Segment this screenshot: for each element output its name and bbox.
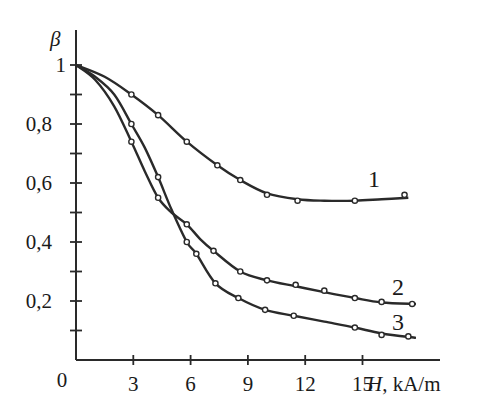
data-point [264,192,269,197]
data-point [156,175,161,180]
data-point [402,192,407,197]
series-1 [76,65,408,203]
tick-labels: 036912150,20,40,60,81 [26,53,373,396]
curve-label-2: 2 [392,274,404,300]
data-point [129,121,134,126]
curve-label-1: 1 [368,166,380,192]
data-point [184,239,189,244]
y-tick-label: 0,8 [26,112,52,136]
data-point [379,332,384,337]
beta-vs-h-chart: 036912150,20,40,60,81 β H, kA/m 1 2 3 [0,0,492,420]
data-point [379,299,384,304]
series-3 [76,65,416,339]
data-point [352,198,357,203]
y-tick-label: 0,2 [26,289,52,313]
x-tick-label: 9 [243,372,254,396]
data-point [194,251,199,256]
y-tick-label: 0,4 [26,230,53,254]
data-point [293,282,298,287]
data-point [184,139,189,144]
data-point [262,307,267,312]
data-point [410,301,415,306]
data-point [291,313,296,318]
curve-label-3: 3 [392,309,404,335]
data-point [295,198,300,203]
data-point [352,295,357,300]
x-axis-title: H, kA/m [366,372,441,396]
data-point [322,288,327,293]
data-point [156,113,161,118]
data-point [129,139,134,144]
x-tick-label: 12 [295,372,316,396]
data-point [215,163,220,168]
x-tick-label: 3 [128,372,139,396]
data-point [352,325,357,330]
x-tick-label: 6 [185,372,196,396]
data-point [238,177,243,182]
data-point [211,248,216,253]
data-point [129,92,134,97]
curves [76,65,416,339]
data-point [264,278,269,283]
series-2 [76,65,416,307]
data-point [213,281,218,286]
data-point [156,195,161,200]
axes [76,30,440,360]
y-tick-label: 0,6 [26,171,52,195]
x-tick-label: 0 [57,368,68,392]
data-point [184,222,189,227]
x-axis-unit: , kA/m [382,372,440,396]
data-point [236,295,241,300]
data-point [238,269,243,274]
y-tick-label: 1 [56,53,67,77]
y-axis-title: β [49,27,61,51]
data-point [406,334,411,339]
